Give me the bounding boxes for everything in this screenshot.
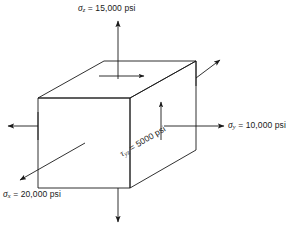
sigma-x-unit: psi	[50, 189, 61, 199]
sigma-x-arrow-down-left	[20, 143, 85, 180]
sigma-y-unit: psi	[275, 120, 286, 130]
sigma-z-equals: =	[88, 3, 93, 13]
sigma-y-subscript: y	[233, 123, 236, 130]
sigma-x-label: σx = 20,000 psi	[3, 189, 61, 199]
cuboid-body	[38, 61, 196, 188]
sigma-y-value: 10,000	[246, 120, 273, 130]
cuboid-top-face	[38, 61, 196, 98]
cuboid-front-face	[38, 98, 130, 188]
sigma-y-label: σy = 10,000 psi	[228, 120, 286, 130]
sigma-z-value: 15,000	[95, 3, 122, 13]
sigma-z-unit: psi	[124, 3, 135, 13]
sigma-x-arrow-up-right	[196, 60, 220, 78]
sigma-y-equals: =	[238, 120, 243, 130]
sigma-x-equals: =	[13, 189, 18, 199]
stress-element-figure: σz = 15,000 psi σy = 10,000 psi σx = 20,…	[0, 0, 300, 230]
sigma-x-value: 20,000	[21, 189, 48, 199]
sigma-z-label: σz = 15,000 psi	[78, 3, 136, 13]
sigma-x-subscript: x	[8, 192, 11, 199]
sigma-z-subscript: z	[83, 6, 86, 13]
sigma-y-arrows	[8, 112, 224, 140]
sigma-x-arrows	[20, 60, 220, 180]
